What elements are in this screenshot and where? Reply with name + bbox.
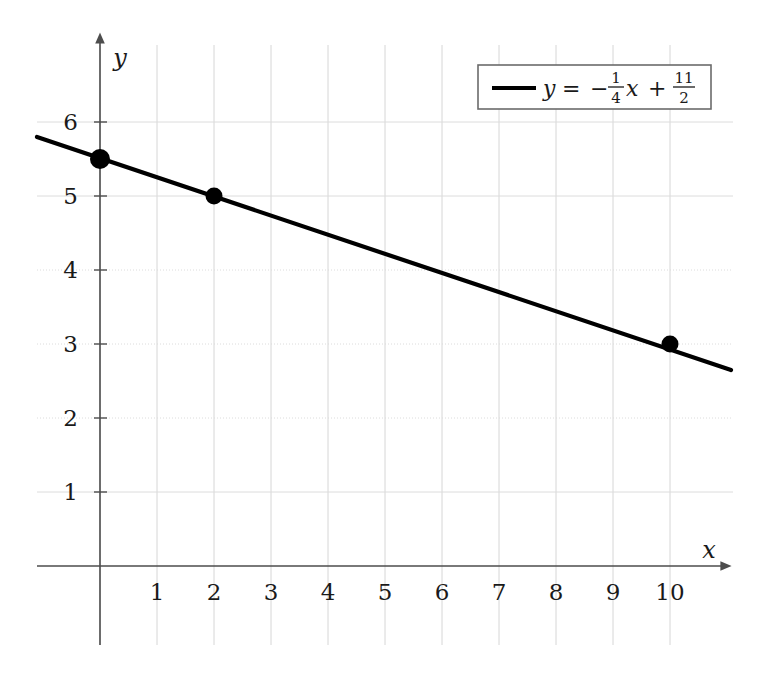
y-tick-label: 1 <box>63 479 78 505</box>
x-tick-label: 8 <box>549 579 564 605</box>
y-tick-label: 5 <box>63 183 78 209</box>
legend: y = − 1 4 x + 11 2 <box>478 65 711 109</box>
legend-intercept-denominator: 2 <box>679 89 689 107</box>
y-tick-label: 3 <box>63 331 78 357</box>
legend-label-plus: + <box>648 76 666 101</box>
y-axis-label: y <box>112 44 127 72</box>
data-point[interactable] <box>206 188 223 205</box>
y-tick-label: 2 <box>63 405 78 431</box>
data-point[interactable] <box>90 149 110 169</box>
x-tick-label: 1 <box>150 579 165 605</box>
x-tick-label: 6 <box>435 579 450 605</box>
legend-label-minus: − <box>590 76 608 101</box>
x-tick-label: 9 <box>606 579 621 605</box>
x-tick-label: 2 <box>207 579 222 605</box>
legend-label-variable: x <box>626 76 639 101</box>
legend-intercept-numerator: 11 <box>674 69 693 87</box>
y-tick-label: 4 <box>63 257 78 283</box>
data-point[interactable] <box>662 336 679 353</box>
y-tick-label: 6 <box>63 109 78 135</box>
legend-label-lhs: y <box>542 76 556 101</box>
x-tick-label: 5 <box>378 579 393 605</box>
x-tick-label: 10 <box>655 579 684 605</box>
chart-container: 1 2 3 4 5 6 1 2 3 4 5 6 7 8 9 10 x y y =… <box>0 0 764 673</box>
legend-label-equals: = <box>562 76 580 101</box>
x-axis-label: x <box>702 536 716 564</box>
line-chart: 1 2 3 4 5 6 1 2 3 4 5 6 7 8 9 10 x y y =… <box>0 0 764 673</box>
x-tick-label: 7 <box>492 579 507 605</box>
x-tick-label: 3 <box>264 579 279 605</box>
x-tick-label: 4 <box>321 579 336 605</box>
legend-slope-denominator: 4 <box>611 89 621 107</box>
legend-slope-numerator: 1 <box>611 69 621 87</box>
